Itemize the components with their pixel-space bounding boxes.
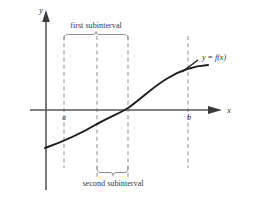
curve-equation-label: y = f(x) <box>201 53 226 62</box>
y-axis-arrowhead <box>42 10 50 22</box>
upper-bound-label-b: b <box>187 113 191 122</box>
curve-group <box>45 65 208 148</box>
x-axis-arrowhead <box>208 106 222 114</box>
second-subinterval-caption: second subinterval <box>82 179 144 188</box>
first-subinterval-caption: first subinterval <box>70 21 122 30</box>
lower-bound-label-a: a <box>62 113 66 122</box>
first-subinterval-brace <box>64 32 128 41</box>
brace-top-path <box>64 32 128 41</box>
axes-group <box>30 10 222 190</box>
dashed-boundary-group <box>64 36 188 178</box>
y-axis-label: y <box>38 6 43 15</box>
x-axis-label: x <box>226 106 231 115</box>
figure-container: y x a b first subinterval second subinte… <box>0 0 255 200</box>
brace-bottom-path <box>97 167 128 176</box>
function-curve <box>45 65 208 148</box>
second-subinterval-brace <box>97 167 128 176</box>
subinterval-diagram: y x a b first subinterval second subinte… <box>0 0 255 200</box>
